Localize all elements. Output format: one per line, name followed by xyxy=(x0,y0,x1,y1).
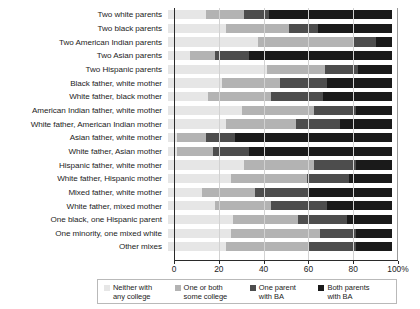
bar-segment xyxy=(327,201,392,210)
chart-row: Two American Indian parents xyxy=(0,35,420,49)
bar-segment xyxy=(208,92,271,101)
chart-legend: Neither with any collegeOne or both some… xyxy=(97,279,397,304)
bar-segment xyxy=(269,10,392,19)
stacked-bar xyxy=(168,65,392,74)
bar-segment xyxy=(258,37,354,46)
chart-row: White father, mixed mother xyxy=(0,199,420,213)
bar-segment xyxy=(215,51,249,60)
bar-segment xyxy=(325,65,359,74)
chart-row: White father, black mother xyxy=(0,90,420,104)
stacked-bar xyxy=(168,160,392,169)
bar-segment xyxy=(177,133,206,142)
category-label: Mixed father, white mother xyxy=(0,188,168,197)
bar-segment xyxy=(271,92,323,101)
bar-cell xyxy=(168,227,392,241)
bar-segment xyxy=(168,215,233,224)
chart-row: Two white parents xyxy=(0,8,420,22)
bar-segment xyxy=(168,78,222,87)
bar-cell xyxy=(168,8,392,22)
bar-segment xyxy=(347,215,392,224)
bar-segment xyxy=(177,147,213,156)
legend-item: Neither with any college xyxy=(104,283,175,301)
legend-item: One or both some college xyxy=(175,283,250,301)
bar-segment xyxy=(309,242,356,251)
bar-cell xyxy=(168,76,392,90)
category-label: White father, black mother xyxy=(0,92,168,101)
legend-label: Both parents with BA xyxy=(327,283,369,301)
x-tick-label: 40 xyxy=(259,264,268,274)
x-tick-label: 60 xyxy=(304,264,313,274)
category-label: Asian father, white mother xyxy=(0,133,168,142)
x-tick-label: 100% xyxy=(387,264,408,274)
stacked-bar xyxy=(168,188,392,197)
bar-segment xyxy=(320,229,356,238)
y-axis-spine xyxy=(174,8,175,261)
bar-segment xyxy=(168,37,258,46)
category-label: Two Hispanic parents xyxy=(0,65,168,74)
chart-row: White father, American Indian mother xyxy=(0,117,420,131)
bar-segment xyxy=(280,78,327,87)
chart-row: American Indian father, white mother xyxy=(0,104,420,118)
chart-row: Black father, white mother xyxy=(0,76,420,90)
bar-segment xyxy=(168,160,244,169)
legend-swatch-icon xyxy=(175,285,181,291)
bar-cell xyxy=(168,145,392,159)
bar-segment xyxy=(222,78,280,87)
chart-row: One black, one Hispanic parent xyxy=(0,213,420,227)
chart-row: White father, Asian mother xyxy=(0,145,420,159)
bar-segment xyxy=(255,188,309,197)
stacked-bar xyxy=(168,37,392,46)
chart-row: White father, Hispanic mother xyxy=(0,172,420,186)
chart-row: One minority, one mixed white xyxy=(0,227,420,241)
x-tick-label: 80 xyxy=(349,264,358,274)
bar-segment xyxy=(168,65,267,74)
bar-cell xyxy=(168,213,392,227)
bar-segment xyxy=(242,106,314,115)
bar-segment xyxy=(249,51,392,60)
stacked-bar xyxy=(168,24,392,33)
stacked-bar-chart: Two white parentsTwo black parentsTwo Am… xyxy=(0,0,420,309)
bar-segment xyxy=(376,37,392,46)
bar-cell xyxy=(168,158,392,172)
category-label: Two white parents xyxy=(0,10,168,19)
stacked-bar xyxy=(168,229,392,238)
bar-cell xyxy=(168,186,392,200)
category-label: Two American Indian parents xyxy=(0,38,168,47)
x-axis-spine xyxy=(174,260,398,261)
bar-segment xyxy=(168,174,231,183)
category-label: Black father, white mother xyxy=(0,79,168,88)
chart-row: Mixed father, white mother xyxy=(0,186,420,200)
stacked-bar xyxy=(168,119,392,128)
category-label: Other mixes xyxy=(0,242,168,251)
category-label: White father, Asian mother xyxy=(0,147,168,156)
category-label: Two black parents xyxy=(0,24,168,33)
bar-segment xyxy=(168,201,215,210)
bar-segment xyxy=(168,133,177,142)
stacked-bar xyxy=(168,174,392,183)
bar-cell xyxy=(168,131,392,145)
x-tick-label: 0 xyxy=(172,264,177,274)
bar-segment xyxy=(349,174,392,183)
bar-cell xyxy=(168,90,392,104)
stacked-bar xyxy=(168,201,392,210)
legend-label: One parent with BA xyxy=(259,283,296,301)
bar-segment xyxy=(190,51,215,60)
bar-segment xyxy=(226,119,295,128)
bar-segment xyxy=(298,215,347,224)
bar-segment xyxy=(168,24,226,33)
legend-swatch-icon xyxy=(104,285,110,291)
chart-row: Two Asian parents xyxy=(0,49,420,63)
category-label: White father, Hispanic mother xyxy=(0,174,168,183)
bar-segment xyxy=(356,160,392,169)
category-label: American Indian father, white mother xyxy=(0,106,168,115)
bar-segment xyxy=(356,106,392,115)
bar-segment xyxy=(202,188,256,197)
bar-segment xyxy=(168,106,242,115)
stacked-bar xyxy=(168,215,392,224)
stacked-bar xyxy=(168,106,392,115)
category-label: Two Asian parents xyxy=(0,51,168,60)
bar-segment xyxy=(289,24,318,33)
legend-label: One or both some college xyxy=(184,283,228,301)
bar-segment xyxy=(244,160,313,169)
category-label: One black, one Hispanic parent xyxy=(0,215,168,224)
